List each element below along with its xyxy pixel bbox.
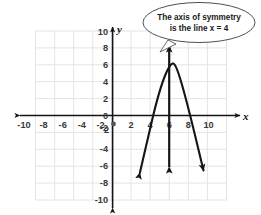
callout-line-1: The axis of symmetry [157, 13, 241, 22]
x-tick-label: 8 [186, 120, 191, 130]
x-tick-label: -10 [17, 120, 30, 130]
y-tick-label: -8 [100, 178, 108, 188]
x-tick-label: -6 [59, 120, 67, 130]
y-tick-label: 6 [103, 60, 108, 70]
y-tick-label: 0 [103, 111, 108, 121]
y-tick-label: -10 [95, 195, 108, 205]
x-tick-label: 10 [203, 120, 213, 130]
y-tick-label: 4 [103, 77, 109, 87]
x-axis-label: x [242, 110, 249, 122]
x-tick-label: -8 [40, 120, 48, 130]
callout-bubble: The axis of symmetry is the line x = 4 [143, 3, 255, 53]
callout-tail [160, 40, 176, 52]
y-tick-label: 2 [103, 94, 108, 104]
callout-ellipse [143, 3, 255, 43]
y-tick-label: 10 [98, 27, 108, 37]
y-tick-label: -6 [100, 161, 108, 171]
callout-line-2: is the line x = 4 [170, 24, 229, 33]
y-tick-label: 8 [103, 43, 108, 53]
origin-marker [111, 122, 116, 127]
x-tick-label-two-overlap: 2 [104, 125, 109, 135]
y-axis-label: y [115, 23, 122, 35]
figure-canvas: -10 -8 -6 -4 -2 2 4 6 8 10 10 8 6 4 2 0 … [0, 0, 261, 215]
x-tick-label: 2 [128, 120, 133, 130]
y-tick-label: -4 [100, 144, 109, 154]
coordinate-plane-graph: -10 -8 -6 -4 -2 2 4 6 8 10 10 8 6 4 2 0 … [0, 0, 261, 215]
parabola-curve [140, 64, 204, 173]
x-tick-label: -4 [78, 120, 87, 130]
